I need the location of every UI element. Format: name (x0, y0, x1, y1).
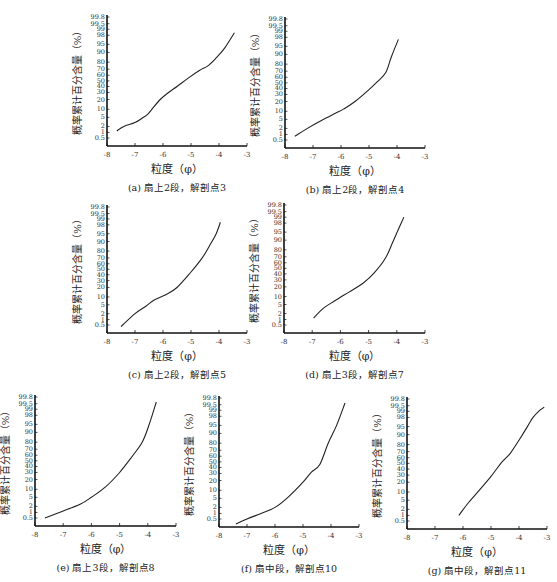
x-tick-label: -6 (160, 151, 167, 159)
x-tick-label: -5 (488, 534, 495, 542)
panel-caption: (d) 扇上3段，解剖点7 (305, 369, 404, 380)
panel-caption: (a) 扇上2段，解剖点3 (128, 182, 226, 193)
x-tick-label: -4 (393, 338, 400, 346)
x-tick-label: -6 (338, 153, 345, 161)
x-tick-label: -8 (32, 531, 39, 539)
y-tick-label: 20 (397, 478, 405, 486)
x-tick-label: -5 (365, 338, 372, 346)
cumulative-probability-curve (236, 403, 345, 524)
x-tick-label: -5 (188, 151, 195, 159)
y-tick-label: 98 (209, 412, 217, 420)
x-tick-label: -7 (60, 531, 67, 539)
y-tick-label: 20 (25, 476, 33, 484)
y-tick-label: 0.5 (95, 321, 105, 329)
x-tick-label: -8 (104, 338, 111, 346)
y-tick-label: 5 (401, 496, 405, 504)
x-tick-label: -6 (272, 532, 279, 540)
y-tick-label: 98 (97, 221, 105, 229)
x-tick-label: -5 (188, 338, 195, 346)
y-tick-label: 20 (97, 96, 105, 104)
cumulative-probability-curve (314, 217, 404, 318)
x-tick-label: -3 (244, 151, 251, 159)
panel-caption: (g) 扇中段，解剖点11 (428, 565, 527, 576)
y-tick-label: 5 (279, 115, 283, 123)
x-tick-label: -4 (394, 153, 401, 161)
y-tick-label: 95 (209, 421, 217, 429)
y-tick-label: 95 (25, 420, 33, 428)
cumulative-probability-curve (117, 33, 235, 131)
panel-caption: (b) 扇上2段，解剖点4 (306, 184, 405, 195)
y-tick-label: 95 (97, 230, 105, 238)
y-tick-label: 98 (397, 413, 405, 421)
y-tick-label: 20 (209, 477, 217, 485)
y-tick-label: 5 (213, 494, 217, 502)
x-tick-label: -3 (422, 338, 429, 346)
x-tick-label: -8 (104, 151, 111, 159)
x-axis-label: 粒度（φ） (151, 349, 203, 363)
y-tick-label: 0.5 (23, 514, 33, 522)
x-tick-label: -8 (282, 153, 289, 161)
x-tick-label: -6 (88, 531, 95, 539)
x-tick-label: -3 (244, 338, 251, 346)
x-tick-label: -7 (310, 153, 317, 161)
y-tick-label: 90 (275, 50, 283, 58)
y-axis-label: 概率累计百分含量（%） (183, 407, 195, 517)
y-tick-label: 10 (97, 105, 105, 113)
y-tick-label: 10 (275, 107, 283, 115)
x-tick-label: -4 (144, 531, 151, 539)
y-tick-label: 10 (397, 488, 405, 496)
y-tick-label: 5 (29, 493, 33, 501)
x-axis-label: 粒度（φ） (151, 162, 203, 176)
y-tick-label: 95 (97, 40, 105, 48)
x-tick-label: -4 (216, 338, 223, 346)
chart-panel-e: 99.899.59998959080706050403020105210.5-8… (0, 393, 179, 573)
x-tick-label: -7 (432, 534, 439, 542)
y-tick-label: 90 (25, 428, 33, 436)
y-tick-label: 0.5 (207, 515, 217, 523)
x-tick-label: -5 (116, 531, 123, 539)
x-tick-label: -8 (281, 338, 288, 346)
y-tick-label: 20 (274, 283, 282, 291)
y-tick-label: 10 (97, 293, 105, 301)
x-axis-label: 粒度（φ） (329, 164, 381, 178)
y-axis-label: 概率累计百分含量（%） (71, 214, 83, 324)
x-tick-label: -3 (544, 534, 551, 542)
y-tick-label: 10 (274, 293, 282, 301)
y-tick-label: 20 (97, 283, 105, 291)
panel-caption: (e) 扇上3段，解剖点8 (56, 562, 154, 573)
x-tick-label: -6 (160, 338, 167, 346)
x-axis-label: 粒度（φ） (329, 349, 381, 363)
y-axis-label: 概率累计百分含量（%） (248, 213, 260, 323)
x-tick-label: -8 (404, 534, 411, 542)
y-tick-label: 95 (274, 228, 282, 236)
y-tick-label: 5 (278, 301, 282, 309)
y-tick-label: 98 (97, 31, 105, 39)
x-tick-label: -7 (244, 532, 251, 540)
panel-caption: (f) 扇中段，解剖点10 (241, 563, 337, 574)
x-tick-label: -5 (366, 153, 373, 161)
x-tick-label: -6 (337, 338, 344, 346)
x-tick-label: -8 (216, 532, 223, 540)
chart-panel-a: 99.899.59998959080706050403020105210.5-8… (71, 13, 250, 193)
panel-caption: (c) 扇上2段，解剖点5 (128, 369, 226, 380)
x-tick-label: -6 (460, 534, 467, 542)
x-tick-label: -7 (132, 338, 139, 346)
y-axis-label: 概率累计百分含量（%） (0, 406, 11, 516)
x-tick-label: -4 (328, 532, 335, 540)
y-axis-label: 概率累计百分含量（%） (371, 408, 383, 518)
x-axis-label: 粒度（φ） (451, 545, 503, 559)
y-axis-label: 概率累计百分含量（%） (249, 28, 261, 138)
x-tick-label: -3 (422, 153, 429, 161)
cumulative-probability-curve (121, 222, 220, 326)
x-tick-label: -3 (356, 532, 363, 540)
y-tick-label: 98 (275, 33, 283, 41)
y-tick-label: 95 (397, 423, 405, 431)
y-tick-label: 5 (101, 301, 105, 309)
x-tick-label: -7 (132, 151, 139, 159)
chart-panel-c: 99.899.59998959080706050403020105210.5-8… (71, 203, 250, 380)
y-tick-label: 10 (209, 486, 217, 494)
y-tick-label: 90 (209, 429, 217, 437)
x-tick-label: -4 (216, 151, 223, 159)
x-axis-label: 粒度（φ） (263, 543, 315, 557)
x-tick-label: -5 (300, 532, 307, 540)
